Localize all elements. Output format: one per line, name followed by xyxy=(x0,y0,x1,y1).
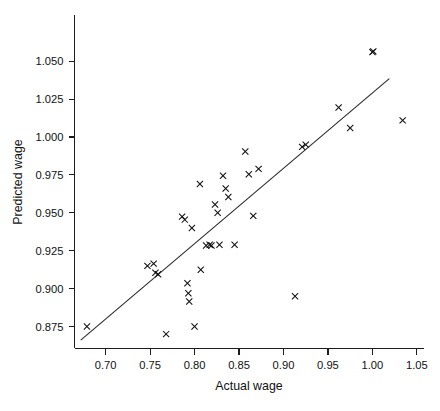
x-axis-ticks: 0.700.750.800.850.900.951.001.05 xyxy=(95,349,428,371)
data-point-marker xyxy=(246,171,252,177)
data-point-marker xyxy=(182,217,188,223)
data-point-marker xyxy=(347,125,353,131)
data-point-marker xyxy=(215,210,221,216)
x-tick-label: 0.70 xyxy=(95,359,117,371)
data-point-marker xyxy=(299,144,305,150)
x-tick-label: 0.95 xyxy=(317,359,339,371)
data-point-marker xyxy=(400,117,406,123)
data-point-marker xyxy=(144,263,150,269)
x-tick-label: 1.05 xyxy=(406,359,428,371)
data-point-marker xyxy=(163,331,169,337)
data-point-marker xyxy=(191,323,197,329)
x-tick-label: 0.85 xyxy=(228,359,250,371)
data-point-marker xyxy=(336,104,342,110)
data-point-marker xyxy=(198,267,204,273)
data-point-marker xyxy=(184,280,190,286)
y-axis-title: Predicted wage xyxy=(11,139,25,225)
data-point-marker xyxy=(250,213,256,219)
data-point-marker xyxy=(216,242,222,248)
data-point-marker xyxy=(84,323,90,329)
y-tick-label: 0.875 xyxy=(36,321,64,333)
scatter-plot-figure: 0.700.750.800.850.900.951.001.05 0.8750.… xyxy=(0,0,440,411)
data-points xyxy=(84,48,406,337)
y-tick-label: 1.025 xyxy=(36,93,64,105)
y-tick-label: 0.925 xyxy=(36,245,64,257)
data-point-marker xyxy=(242,148,248,154)
plot-canvas: 0.700.750.800.850.900.951.001.05 0.8750.… xyxy=(0,0,440,411)
data-point-marker xyxy=(151,261,157,267)
y-tick-label: 0.975 xyxy=(36,169,64,181)
data-point-marker xyxy=(155,271,161,277)
data-point-marker xyxy=(212,201,218,207)
y-tick-label: 1.050 xyxy=(36,55,64,67)
axes xyxy=(75,15,425,349)
x-tick-label: 0.90 xyxy=(273,359,295,371)
data-point-marker xyxy=(303,142,309,148)
x-tick-label: 0.75 xyxy=(139,359,161,371)
data-point-marker xyxy=(220,173,226,179)
data-point-marker xyxy=(255,166,261,172)
data-point-marker xyxy=(185,290,191,296)
y-axis-ticks: 0.8750.9000.9250.9500.9751.0001.0251.050 xyxy=(36,55,75,332)
data-point-marker xyxy=(223,185,229,191)
x-tick-label: 0.80 xyxy=(184,359,206,371)
data-point-marker xyxy=(225,194,231,200)
y-tick-label: 0.950 xyxy=(36,207,64,219)
data-point-marker xyxy=(189,225,195,231)
y-tick-label: 1.000 xyxy=(36,131,64,143)
data-point-marker xyxy=(292,293,298,299)
x-axis-title: Actual wage xyxy=(215,379,283,393)
data-point-marker xyxy=(231,242,237,248)
x-tick-label: 1.00 xyxy=(362,359,384,371)
data-point-marker xyxy=(186,298,192,304)
y-tick-label: 0.900 xyxy=(36,283,64,295)
regression-line-segment xyxy=(81,79,390,340)
regression-line xyxy=(81,79,390,340)
data-point-marker xyxy=(197,181,203,187)
